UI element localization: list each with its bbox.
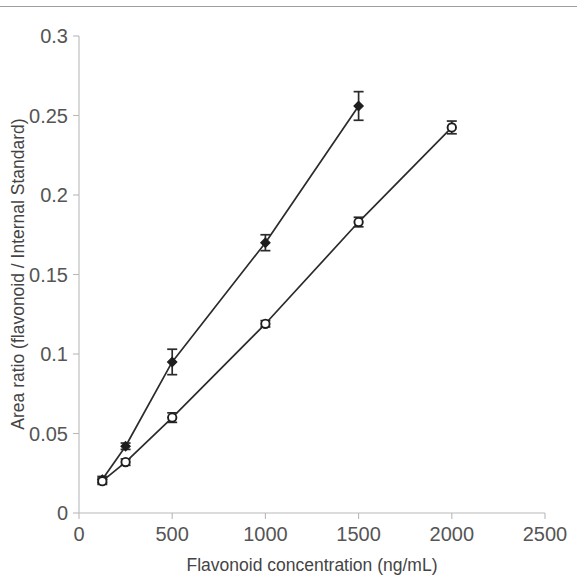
data-point-marker xyxy=(98,477,106,485)
x-axis-ticks xyxy=(79,513,545,519)
data-point-marker xyxy=(261,320,269,328)
figure-page: 00.050.10.150.20.250.3 05001000150020002… xyxy=(0,0,577,578)
series-line-open-circle-series xyxy=(102,127,452,481)
series-open-circle-series xyxy=(97,121,457,485)
y-tick-label: 0.25 xyxy=(29,105,68,127)
calibration-curve-chart: 00.050.10.150.20.250.3 05001000150020002… xyxy=(0,0,577,578)
data-series-layer xyxy=(97,92,457,486)
y-tick-label: 0.2 xyxy=(40,184,68,206)
y-tick-label: 0.3 xyxy=(40,25,68,47)
x-tick-label: 0 xyxy=(73,523,84,545)
data-point-marker xyxy=(168,413,176,421)
x-tick-label: 500 xyxy=(156,523,189,545)
x-axis-title: Flavonoid concentration (ng/mL) xyxy=(187,555,438,575)
y-axis-ticks xyxy=(73,36,79,513)
x-tick-label: 2500 xyxy=(523,523,568,545)
x-tick-label: 1500 xyxy=(336,523,381,545)
series-filled-diamond-series xyxy=(97,92,363,485)
y-axis-title: Area ratio (flavonoid / Internal Standar… xyxy=(8,118,28,429)
axes-group xyxy=(79,36,545,513)
x-tick-label: 2000 xyxy=(430,523,475,545)
series-line-filled-diamond-series xyxy=(102,106,358,480)
y-tick-label: 0.15 xyxy=(29,264,68,286)
x-axis-tick-labels: 05001000150020002500 xyxy=(73,523,567,545)
x-tick-label: 1000 xyxy=(243,523,288,545)
data-point-marker xyxy=(448,123,456,131)
data-point-marker xyxy=(354,218,362,226)
y-axis-tick-labels: 00.050.10.150.20.250.3 xyxy=(29,25,68,524)
data-point-marker xyxy=(121,458,129,466)
y-tick-label: 0 xyxy=(57,502,68,524)
y-tick-label: 0.05 xyxy=(29,423,68,445)
plot-area: 00.050.10.150.20.250.3 05001000150020002… xyxy=(0,0,577,578)
y-tick-label: 0.1 xyxy=(40,343,68,365)
